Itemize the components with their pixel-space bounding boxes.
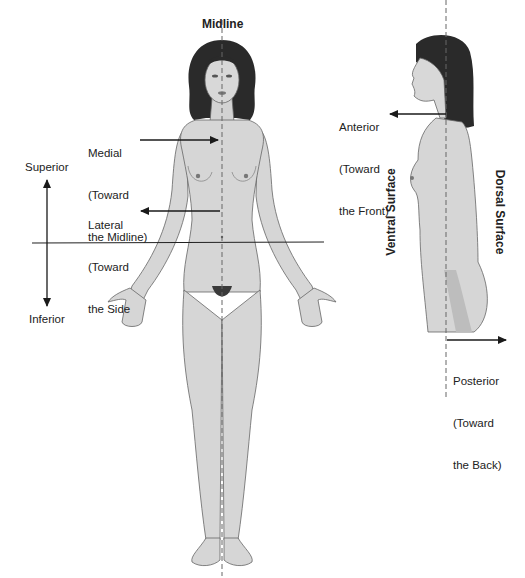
dorsal-surface-label: Dorsal Surface [493, 170, 507, 255]
posterior-label-line2: (Toward [453, 416, 502, 430]
lateral-label-line1: Lateral [88, 218, 130, 232]
medial-label-line1: Medial [88, 146, 147, 160]
posterior-label-line1: Posterior [453, 374, 502, 388]
side-view-figure [410, 35, 487, 332]
anterior-label-line1: Anterior [339, 120, 389, 134]
superior-label: Superior [25, 160, 68, 174]
lateral-label-line3: the Side [88, 302, 130, 316]
posterior-label: Posterior (Toward the Back) [453, 346, 502, 486]
posterior-label-line3: the Back) [453, 458, 502, 472]
lateral-label-line2: (Toward [88, 260, 130, 274]
anterior-label-line2: (Toward [339, 162, 389, 176]
anterior-label: Anterior (Toward the Front) [339, 92, 389, 232]
anatomy-diagram [0, 0, 525, 578]
anterior-label-line3: the Front) [339, 204, 389, 218]
midline-label: Midline [202, 17, 243, 31]
inferior-label: Inferior [29, 312, 65, 326]
ventral-surface-label: Ventral Surface [384, 168, 398, 255]
lateral-label: Lateral (Toward the Side [88, 190, 130, 330]
